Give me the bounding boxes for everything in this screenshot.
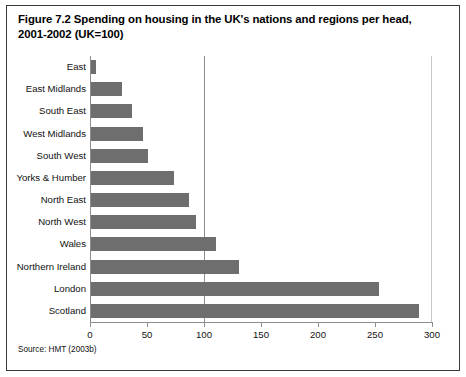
chart-row: Scotland (0, 300, 466, 322)
chart-row: South West (0, 145, 466, 167)
chart-row: East Midlands (0, 78, 466, 100)
category-label: Northern Ireland (17, 256, 86, 278)
category-label: Scotland (49, 300, 86, 322)
x-axis-tick-label: 200 (310, 329, 326, 340)
chart-row: West Midlands (0, 123, 466, 145)
source-note: Source: HMT (2003b) (18, 345, 97, 354)
x-axis-tick (375, 322, 376, 327)
bar (91, 260, 239, 274)
category-label: East Midlands (26, 78, 86, 100)
chart-row: Yorks & Humber (0, 167, 466, 189)
figure-container: Figure 7.2 Spending on housing in the UK… (0, 0, 466, 377)
x-axis-tick-label: 150 (253, 329, 269, 340)
bar (91, 149, 148, 163)
x-axis-tick (261, 322, 262, 327)
chart-row: North West (0, 211, 466, 233)
x-axis-tick (432, 322, 433, 327)
x-axis-tick-label: 50 (142, 329, 153, 340)
chart-row: Northern Ireland (0, 256, 466, 278)
x-axis-tick-label: 0 (87, 329, 92, 340)
x-axis-tick (204, 322, 205, 327)
category-label: London (54, 278, 86, 300)
category-label: North East (41, 189, 86, 211)
chart-row: Wales (0, 233, 466, 255)
chart-row: London (0, 278, 466, 300)
bar (91, 237, 216, 251)
bar (91, 304, 419, 318)
bar (91, 104, 132, 118)
category-label: Wales (60, 233, 86, 255)
chart-row: East (0, 56, 466, 78)
bar (91, 282, 379, 296)
category-label: North West (38, 211, 86, 233)
category-label: East (67, 56, 86, 78)
x-axis-tick (318, 322, 319, 327)
x-axis-tick (147, 322, 148, 327)
category-label: South West (37, 145, 86, 167)
figure-title: Figure 7.2 Spending on housing in the UK… (18, 12, 442, 42)
bar (91, 193, 189, 207)
x-axis-tick-label: 100 (196, 329, 212, 340)
x-axis-tick-label: 300 (424, 329, 440, 340)
x-axis-tick (90, 322, 91, 327)
x-axis-tick-label: 250 (367, 329, 383, 340)
chart-row: North East (0, 189, 466, 211)
chart-row: South East (0, 100, 466, 122)
bar (91, 127, 143, 141)
bar (91, 215, 196, 229)
category-label: West Midlands (23, 123, 86, 145)
bar (91, 60, 96, 74)
bar (91, 171, 174, 185)
category-label: South East (39, 100, 86, 122)
category-label: Yorks & Humber (17, 167, 87, 189)
bar (91, 82, 122, 96)
